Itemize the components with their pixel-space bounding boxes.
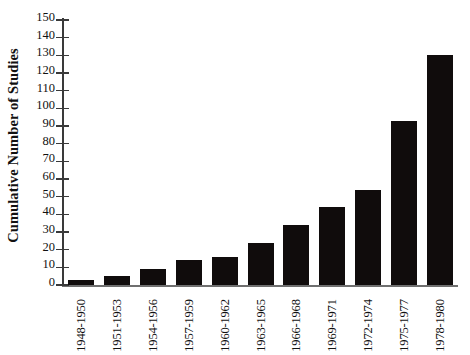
x-label-slot: 1954-1956 [140,288,166,355]
x-label-slot: 1966-1968 [283,288,309,355]
bar [140,269,166,285]
bar-chart-figure: Cumulative Number of Studies 15014013012… [0,0,470,355]
x-tick-label: 1951-1953 [110,299,123,351]
x-label-slot: 1963-1965 [248,288,274,355]
x-label-slot: 1957-1959 [176,288,202,355]
bars-layer [63,20,458,285]
plot-area: 1501401301201101009080706050403020100 [62,20,458,285]
bar [427,55,453,285]
y-tick-label: 120 [21,64,55,77]
y-tick-label: 70 [21,152,55,165]
y-tick-label: 40 [21,205,55,218]
bar [355,190,381,285]
y-tick-label: 140 [21,29,55,42]
bar-slot [355,20,381,285]
x-tick-label: 1954-1956 [146,299,159,351]
x-label-slot: 1969-1971 [319,288,345,355]
y-axis-title-text: Cumulative Number of Studies [5,48,22,243]
bar-slot [391,20,417,285]
y-tick-label: 150 [21,11,55,24]
x-tick-label: 1978-1980 [434,299,447,351]
x-tick-label: 1975-1977 [398,299,411,351]
bar [104,276,130,285]
y-tick-label: 80 [21,135,55,148]
bar-slot [140,20,166,285]
x-tick-label: 1963-1965 [254,299,267,351]
bar-slot [68,20,94,285]
y-tick-label: 110 [21,82,55,95]
bar-slot [319,20,345,285]
bar [68,280,94,285]
bar [391,121,417,285]
y-tick-label: 90 [21,117,55,130]
x-tick-label: 1966-1968 [290,299,303,351]
x-label-slot: 1978-1980 [427,288,453,355]
bar [319,207,345,285]
x-tick-label: 1969-1971 [326,299,339,351]
x-tick-label: 1957-1959 [182,299,195,351]
y-tick-label: 10 [21,258,55,271]
x-label-slot: 1972-1974 [355,288,381,355]
x-label-slot: 1975-1977 [391,288,417,355]
bar-slot [283,20,309,285]
x-label-slot: 1948-1950 [68,288,94,355]
y-tick-label: 0 [21,276,55,289]
x-tick-label: 1948-1950 [74,299,87,351]
y-tick-label: 50 [21,188,55,201]
x-axis-labels: 1948-19501951-19531954-19561957-19591960… [63,288,459,355]
x-label-slot: 1951-1953 [104,288,130,355]
x-label-slot: 1960-1962 [212,288,238,355]
bar-slot [248,20,274,285]
y-tick-label: 20 [21,241,55,254]
bar-slot [212,20,238,285]
x-tick-label: 1972-1974 [362,299,375,351]
x-axis-baseline [62,285,458,287]
bar [176,260,202,285]
bar [248,243,274,285]
bar-slot [427,20,453,285]
y-tick-label: 60 [21,170,55,183]
y-tick-label: 30 [21,223,55,236]
y-tick-label: 100 [21,99,55,112]
bar [212,257,238,285]
y-tick-label: 130 [21,46,55,59]
x-tick-label: 1960-1962 [218,299,231,351]
bar-slot [176,20,202,285]
bar [283,225,309,285]
bar-slot [104,20,130,285]
